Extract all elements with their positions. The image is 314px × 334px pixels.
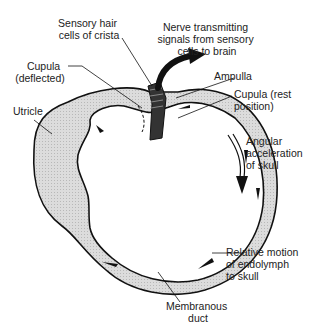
label-nerve: Nerve transmitting signals from sensory … (157, 21, 256, 57)
label-sensory-hair-cells: Sensory hair cells of crista (58, 17, 120, 41)
label-angular-acceleration: Angular acceleration of skull (246, 135, 306, 171)
label-ampulla: Ampulla (214, 70, 252, 82)
label-cupula-rest: Cupula (rest position) (234, 88, 294, 112)
label-membranous-duct: Membranous duct (166, 300, 230, 324)
label-utricle: Utricle (13, 105, 43, 117)
semicircular-canal-diagram: Sensory hair cells of crista Nerve trans… (0, 0, 314, 334)
label-relative-motion: Relative motion of endolymph to skull (226, 246, 301, 282)
label-cupula-deflected: Cupula (deflected) (15, 60, 65, 84)
